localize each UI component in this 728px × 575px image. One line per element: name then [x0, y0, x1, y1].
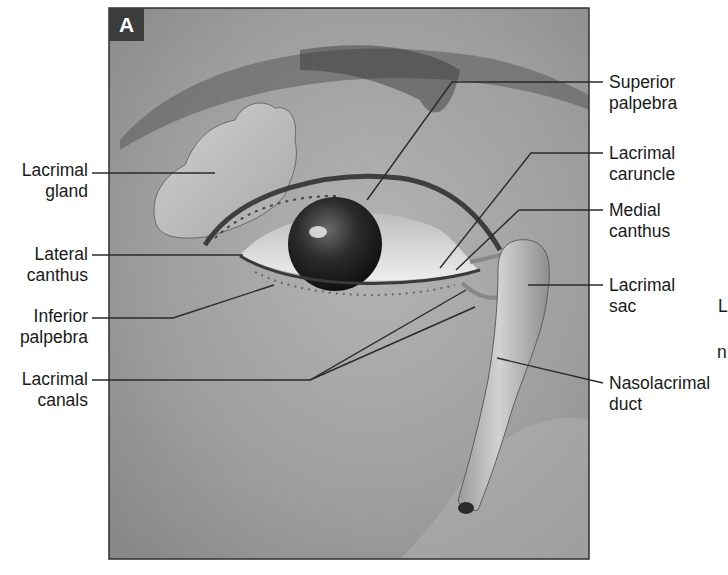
label-superior-palpebra: Superior palpebra	[609, 72, 677, 114]
cropped-text-fragment: n	[717, 342, 727, 363]
label-lateral-canthus: Lateral canthus	[10, 244, 88, 286]
label-nasolacrimal-duct: Nasolacrimal duct	[609, 373, 710, 415]
label-lacrimal-caruncle: Lacrimal caruncle	[609, 143, 675, 185]
duct-opening	[458, 502, 474, 514]
label-lacrimal-sac: Lacrimal sac	[609, 275, 675, 317]
eye-highlight	[309, 226, 327, 238]
label-lacrimal-gland: Lacrimal gland	[10, 160, 88, 202]
cropped-text-fragment: L	[718, 296, 728, 317]
label-inferior-palpebra: Inferior palpebra	[10, 306, 88, 348]
panel-letter-badge: A	[109, 8, 144, 41]
label-medial-canthus: Medial canthus	[609, 200, 670, 242]
label-lacrimal-canals: Lacrimal canals	[10, 369, 88, 411]
